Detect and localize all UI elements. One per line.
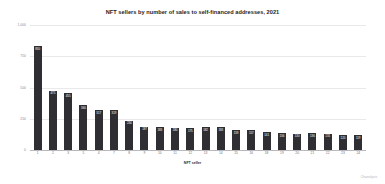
bar[interactable]: 187 (140, 127, 148, 150)
bar-value-label: 830 (35, 48, 40, 51)
bar-slot: 159 (228, 25, 243, 150)
bar[interactable]: 455 (64, 93, 72, 150)
x-axis-tick-labels: 123547891011121314151618192021222324 (30, 151, 366, 155)
x-axis-tick-label: 11 (167, 151, 182, 155)
bar[interactable]: 136 (278, 133, 286, 150)
bar[interactable]: 319 (110, 110, 118, 150)
x-axis-tick-label: 5 (76, 151, 91, 155)
bar[interactable]: 175 (186, 128, 194, 150)
bar-value-label: 131 (325, 135, 330, 138)
bar-slot: 475 (45, 25, 60, 150)
bar-value-label: 234 (127, 122, 132, 125)
plot-area: 02505007501,000 830475455360317319234187… (30, 25, 366, 150)
bar-slot: 317 (91, 25, 106, 150)
y-axis-tick-label: 0 (4, 148, 26, 152)
x-axis-tick-label: 10 (152, 151, 167, 155)
bar[interactable]: 830 (34, 46, 42, 150)
bar-slot: 120 (335, 25, 350, 150)
x-axis-tick-label: 8 (122, 151, 137, 155)
y-axis-tick-label: 750 (4, 54, 26, 58)
bar-value-label: 180 (173, 129, 178, 132)
bar-value-label: 319 (112, 112, 117, 115)
bar[interactable]: 157 (247, 130, 255, 150)
bar[interactable]: 120 (339, 135, 347, 150)
chart-container: NFT sellers by number of sales to self-f… (0, 0, 385, 184)
x-axis-tick-label: 2 (45, 151, 60, 155)
bar-slot: 830 (30, 25, 45, 150)
bar-slot: 182 (198, 25, 213, 150)
bar[interactable]: 130 (293, 134, 301, 150)
bar-value-label: 183 (157, 129, 162, 132)
bar-value-label: 119 (356, 137, 360, 140)
bar-value-label: 187 (142, 128, 147, 131)
bar-slot: 136 (305, 25, 320, 150)
bar[interactable]: 136 (308, 133, 316, 150)
bar[interactable]: 141 (263, 132, 271, 150)
x-axis-tick-label: 24 (351, 151, 366, 155)
bar-value-label: 159 (234, 132, 239, 135)
bar-value-label: 360 (81, 107, 86, 110)
bar-value-label: 130 (295, 135, 300, 138)
bar-slot: 360 (76, 25, 91, 150)
bar-slot: 319 (106, 25, 121, 150)
x-axis-tick-label: 16 (244, 151, 259, 155)
x-axis-tick-label: 9 (137, 151, 152, 155)
y-axis-tick-label: 500 (4, 86, 26, 90)
bar-value-label: 475 (51, 92, 56, 95)
bar-slot: 141 (259, 25, 274, 150)
bar-slot: 119 (351, 25, 366, 150)
bar[interactable]: 131 (324, 134, 332, 150)
x-axis-tick-label: 23 (335, 151, 350, 155)
x-axis-tick-label: 7 (106, 151, 121, 155)
bar-slot: 187 (137, 25, 152, 150)
x-axis-tick-label: 18 (259, 151, 274, 155)
bar-value-label: 182 (203, 129, 208, 132)
bar-value-label: 120 (341, 137, 346, 140)
bar[interactable]: 475 (49, 91, 57, 150)
x-axis-tick-label: 4 (91, 151, 106, 155)
bar-slot: 455 (61, 25, 76, 150)
chart-title: NFT sellers by number of sales to self-f… (0, 9, 385, 15)
bar-slot: 234 (122, 25, 137, 150)
bar[interactable]: 183 (217, 127, 225, 150)
x-axis-tick-label: 3 (61, 151, 76, 155)
bar-value-label: 175 (188, 130, 193, 133)
bar[interactable]: 182 (202, 127, 210, 150)
bar-slot: 131 (320, 25, 335, 150)
x-axis-tick-label: 1 (30, 151, 45, 155)
bar-slot: 183 (213, 25, 228, 150)
bar[interactable]: 234 (125, 121, 133, 150)
bar[interactable]: 180 (171, 128, 179, 151)
bar-slot: 180 (167, 25, 182, 150)
x-axis-tick-label: 13 (198, 151, 213, 155)
bar-slot: 175 (183, 25, 198, 150)
bar-slot: 183 (152, 25, 167, 150)
x-axis-tick-label: 21 (305, 151, 320, 155)
bar[interactable]: 317 (95, 110, 103, 150)
bar-value-label: 136 (310, 135, 315, 138)
bar[interactable]: 183 (156, 127, 164, 150)
bar-value-label: 317 (96, 112, 101, 115)
y-axis-tick-label: 1,000 (4, 23, 26, 27)
bar-value-label: 141 (264, 134, 269, 137)
attribution-watermark: Chainalysis (361, 175, 377, 179)
bar-value-label: 455 (66, 95, 71, 98)
bar[interactable]: 119 (354, 135, 362, 150)
x-axis-tick-label: 14 (213, 151, 228, 155)
y-axis-tick-label: 250 (4, 117, 26, 121)
x-axis-title: NFT seller (0, 161, 385, 165)
bar[interactable]: 360 (79, 105, 87, 150)
bar-series: 8304754553603173192341871831801751821831… (30, 25, 366, 150)
x-axis-tick-label: 22 (320, 151, 335, 155)
x-axis-tick-label: 20 (290, 151, 305, 155)
bar-slot: 157 (244, 25, 259, 150)
bar-slot: 136 (274, 25, 289, 150)
x-axis-tick-label: 15 (228, 151, 243, 155)
x-axis-tick-label: 19 (274, 151, 289, 155)
bar[interactable]: 159 (232, 130, 240, 150)
bar-value-label: 136 (280, 135, 285, 138)
bar-value-label: 157 (249, 132, 254, 135)
bar-slot: 130 (290, 25, 305, 150)
x-axis-tick-label: 12 (183, 151, 198, 155)
bar-value-label: 183 (218, 129, 223, 132)
